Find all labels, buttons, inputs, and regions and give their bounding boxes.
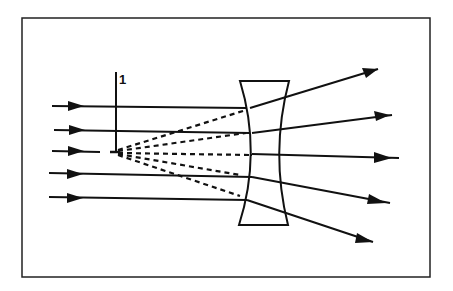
arrow-icon [367,194,386,204]
outgoing-ray-2 [252,115,392,133]
virtual-ray-4 [118,154,240,175]
outgoing-arrowheads [355,68,392,243]
focal-point-label: 1 [119,72,126,87]
outgoing-ray-5 [247,200,373,242]
arrow-icon [355,233,373,243]
arrow-icon [68,146,84,156]
arrow-icon [362,68,378,78]
arrow-icon [374,152,392,163]
arrow-icon [67,193,83,203]
arrow-icon [67,169,83,179]
virtual-ray-1 [118,110,246,150]
arrow-icon [68,101,84,111]
diagram-frame [22,18,430,277]
virtual-rays [118,110,250,196]
arrow-icon [69,125,85,135]
incoming-rays [49,106,252,200]
outgoing-ray-1 [250,69,378,108]
virtual-ray-2 [118,133,246,151]
diverging-lens-diagram: 1 [0,0,453,291]
virtual-ray-3 [118,153,250,155]
concave-lens [239,81,289,225]
arrow-icon [374,111,390,121]
